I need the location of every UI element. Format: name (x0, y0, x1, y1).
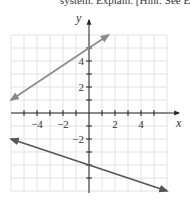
coordinate-plane: −4−22442−2 x y (0, 0, 190, 208)
x-tick-label: −4 (31, 118, 43, 130)
y-tick-label: 4 (79, 55, 85, 67)
x-axis-label: x (175, 116, 182, 130)
upper-line (11, 35, 109, 100)
x-tick-label: 2 (112, 118, 118, 130)
x-tick-label: 4 (138, 118, 144, 130)
y-axis-label: y (75, 11, 82, 25)
y-tick-label: 2 (79, 81, 85, 93)
y-tick-label: −2 (72, 133, 84, 145)
x-tick-label: −2 (57, 118, 69, 130)
